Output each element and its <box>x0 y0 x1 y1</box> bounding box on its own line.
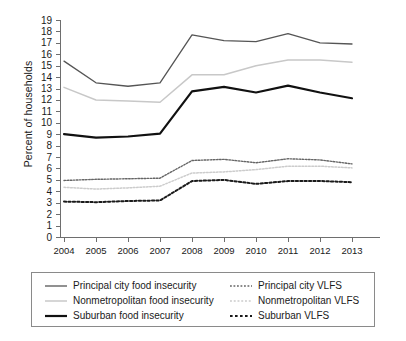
x-tick-label: 2006 <box>117 245 138 256</box>
series-line-5 <box>64 166 352 189</box>
x-tick-label: 2011 <box>278 245 298 256</box>
chart-page: Percent of households 012345678910111213… <box>0 0 406 341</box>
legend-item[interactable]: Nonmetropolitan VLFS <box>230 293 380 308</box>
y-tick-label: 2 <box>46 209 52 220</box>
y-tick-label: 15 <box>41 60 53 71</box>
legend-item[interactable]: Principal city food insecurity <box>45 278 235 293</box>
legend-item-label: Suburban VLFS <box>258 310 329 321</box>
x-tick-label: 2012 <box>309 245 330 256</box>
y-axis-ticks: 012345678910111213141516171819 <box>41 15 61 243</box>
x-tick-label: 2004 <box>53 245 74 256</box>
data-series-group <box>64 34 352 202</box>
x-axis-ticks: 2004200520062007200820092010201120122013 <box>53 238 362 257</box>
x-tick-label: 2009 <box>213 245 234 256</box>
y-tick-label: 3 <box>46 197 52 208</box>
series-line-4 <box>64 159 352 181</box>
legend-item[interactable]: Suburban VLFS <box>230 308 380 323</box>
y-tick-label: 19 <box>41 15 53 26</box>
legend-item-label: Principal city food insecurity <box>73 280 196 291</box>
legend-item-label: Nonmetropolitan food insecurity <box>73 295 214 306</box>
series-line-2 <box>64 60 352 102</box>
series-line-6 <box>64 180 352 202</box>
y-tick-label: 1 <box>46 220 52 231</box>
x-tick-label: 2005 <box>85 245 106 256</box>
x-tick-label: 2008 <box>181 245 202 256</box>
legend-item-label: Suburban food insecurity <box>73 310 184 321</box>
legend-line-swatch-icon <box>230 281 252 291</box>
legend-column-right: Principal city VLFSNonmetropolitan VLFSS… <box>230 278 380 323</box>
y-tick-label: 0 <box>46 232 52 243</box>
y-tick-label: 17 <box>41 37 53 48</box>
y-tick-label: 11 <box>42 106 53 117</box>
series-line-3 <box>64 86 352 138</box>
y-tick-label: 6 <box>46 163 52 174</box>
legend-line-swatch-icon <box>230 311 252 321</box>
legend-line-swatch-icon <box>45 311 67 321</box>
legend-item-label: Nonmetropolitan VLFS <box>258 295 359 306</box>
line-chart: Percent of households 012345678910111213… <box>0 0 406 262</box>
y-tick-label: 12 <box>41 94 53 105</box>
x-tick-label: 2007 <box>149 245 170 256</box>
legend-line-swatch-icon <box>45 281 67 291</box>
legend-item[interactable]: Suburban food insecurity <box>45 308 235 323</box>
y-tick-label: 13 <box>41 83 53 94</box>
y-tick-label: 4 <box>46 186 52 197</box>
y-tick-label: 14 <box>41 72 53 83</box>
y-tick-label: 5 <box>46 174 52 185</box>
plot-canvas: 012345678910111213141516171819 200420052… <box>0 0 406 262</box>
chart-legend: Principal city food insecurityNonmetropo… <box>31 272 375 327</box>
x-tick-label: 2010 <box>245 245 266 256</box>
legend-column-left: Principal city food insecurityNonmetropo… <box>45 278 235 323</box>
y-tick-label: 18 <box>41 26 53 37</box>
legend-item[interactable]: Nonmetropolitan food insecurity <box>45 293 235 308</box>
legend-item[interactable]: Principal city VLFS <box>230 278 380 293</box>
y-tick-label: 16 <box>41 49 53 60</box>
y-tick-label: 9 <box>46 129 52 140</box>
legend-item-label: Principal city VLFS <box>258 280 342 291</box>
y-tick-label: 8 <box>46 140 52 151</box>
x-tick-label: 2013 <box>341 245 362 256</box>
legend-line-swatch-icon <box>45 296 67 306</box>
legend-line-swatch-icon <box>230 296 252 306</box>
y-tick-label: 10 <box>41 117 53 128</box>
y-tick-label: 7 <box>46 152 52 163</box>
